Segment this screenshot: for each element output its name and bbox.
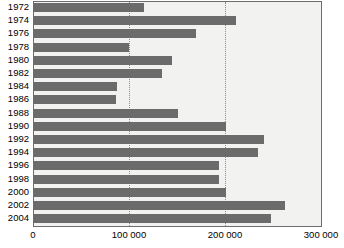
bar-row — [33, 214, 321, 223]
bar-row — [33, 148, 321, 157]
bar-row — [33, 69, 321, 78]
x-axis-tick-200000: 200 000 — [208, 229, 242, 241]
bar-1972 — [33, 3, 144, 12]
bar-1988 — [33, 109, 178, 118]
y-axis-label-1984: 1984 — [0, 81, 29, 91]
bar-row — [33, 3, 321, 12]
bar-row — [33, 122, 321, 131]
bar-1984 — [33, 82, 117, 91]
bar-2002 — [33, 201, 285, 210]
bar-series — [33, 1, 322, 227]
bar-row — [33, 161, 321, 170]
bar-row — [33, 95, 321, 104]
x-axis-tick-100000: 100 000 — [112, 229, 146, 241]
bar-row — [33, 29, 321, 38]
bar-row — [33, 56, 321, 65]
bar-1998 — [33, 175, 219, 184]
bar-row — [33, 201, 321, 210]
y-axis-label-1994: 1994 — [0, 147, 29, 157]
bar-2000 — [33, 188, 226, 197]
bar-row — [33, 188, 321, 197]
bar-1994 — [33, 148, 258, 157]
bar-row — [33, 175, 321, 184]
y-axis-label-1982: 1982 — [0, 68, 29, 78]
bar-1980 — [33, 56, 172, 65]
bar-1996 — [33, 161, 219, 170]
y-axis-label-1980: 1980 — [0, 55, 29, 65]
y-axis-category-labels: 1972197419761978198019821984198619881990… — [0, 0, 31, 228]
y-axis-label-1998: 1998 — [0, 174, 29, 184]
x-axis-tick-300000: 300 000 — [304, 229, 338, 241]
y-axis-label-1978: 1978 — [0, 42, 29, 52]
bar-1990 — [33, 122, 226, 131]
y-axis-label-2004: 2004 — [0, 213, 29, 223]
bar-1992 — [33, 135, 264, 144]
y-axis-label-1990: 1990 — [0, 121, 29, 131]
y-axis-label-1972: 1972 — [0, 2, 29, 12]
bar-1982 — [33, 69, 162, 78]
x-axis-tick-labels: 0100 000200 000300 000 — [0, 229, 344, 245]
bar-row — [33, 43, 321, 52]
bar-1974 — [33, 16, 236, 25]
y-axis-label-1976: 1976 — [0, 28, 29, 38]
y-axis-label-2002: 2002 — [0, 200, 29, 210]
bar-1986 — [33, 95, 116, 104]
bar-row — [33, 82, 321, 91]
bar-1978 — [33, 43, 129, 52]
y-axis-label-1974: 1974 — [0, 15, 29, 25]
y-axis-label-2000: 2000 — [0, 187, 29, 197]
bar-row — [33, 109, 321, 118]
y-axis-label-1992: 1992 — [0, 134, 29, 144]
x-axis-tick-0: 0 — [30, 229, 35, 241]
bar-row — [33, 16, 321, 25]
y-axis-label-1996: 1996 — [0, 160, 29, 170]
horizontal-bar-chart: 1972197419761978198019821984198619881990… — [0, 0, 344, 248]
y-axis-label-1986: 1986 — [0, 94, 29, 104]
bar-row — [33, 135, 321, 144]
bar-1976 — [33, 29, 196, 38]
bar-2004 — [33, 214, 271, 223]
y-axis-label-1988: 1988 — [0, 108, 29, 118]
